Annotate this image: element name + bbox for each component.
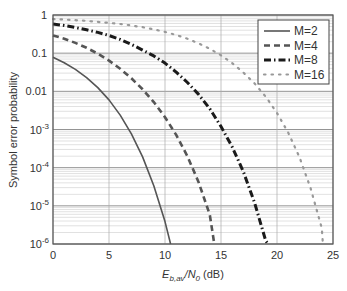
x-axis-ticks: 0510152025 [50, 249, 339, 261]
y-axis-label: Symbol error probability [7, 71, 19, 188]
y-tick-label: 10-5 [30, 198, 50, 212]
x-axis-label: Eb,av/N0 (dB) [162, 268, 224, 283]
y-tick-label: 0.01 [26, 85, 47, 97]
legend-label: M=4 [294, 39, 318, 53]
legend-label: M=2 [294, 24, 318, 38]
chart: 0510152025 10.10.0110-310-410-510-6 Symb… [0, 0, 347, 291]
y-axis-ticks: 10.10.0110-310-410-510-6 [26, 9, 50, 250]
legend: M=2M=4M=8M=16 [258, 20, 329, 84]
x-tick-label: 10 [159, 249, 171, 261]
x-tick-label: 15 [215, 249, 227, 261]
y-tick-label: 1 [41, 9, 47, 21]
legend-label: M=8 [294, 53, 318, 67]
x-tick-label: 0 [50, 249, 56, 261]
y-tick-label: 10-3 [30, 122, 50, 136]
x-tick-label: 5 [106, 249, 112, 261]
legend-label: M=16 [294, 68, 325, 82]
x-tick-label: 25 [327, 249, 339, 261]
series-m-2 [53, 57, 171, 244]
y-tick-label: 10-4 [30, 160, 50, 174]
x-tick-label: 20 [271, 249, 283, 261]
y-tick-label: 0.1 [32, 47, 47, 59]
y-tick-label: 10-6 [30, 236, 50, 250]
